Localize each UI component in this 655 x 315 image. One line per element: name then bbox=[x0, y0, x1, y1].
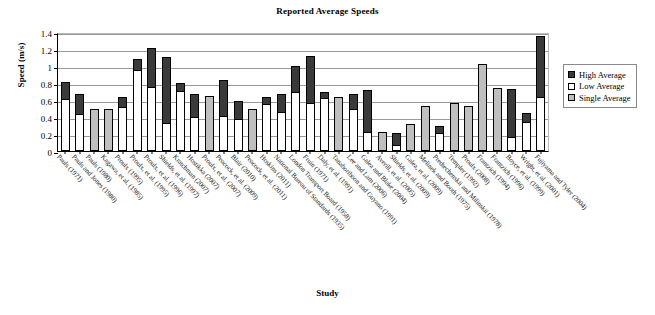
bar-segment-high-average bbox=[133, 59, 142, 70]
bar-segment-low-average bbox=[277, 112, 286, 151]
bar-slot bbox=[447, 34, 461, 151]
bar[interactable] bbox=[464, 106, 473, 151]
y-tick-label: 0.8 bbox=[22, 80, 52, 90]
bar[interactable] bbox=[507, 89, 516, 151]
bar-slot bbox=[375, 34, 389, 151]
bar[interactable] bbox=[219, 80, 228, 151]
bar-segment-high-average bbox=[507, 89, 516, 137]
bar-slot bbox=[116, 34, 130, 151]
bar-segment-single-average bbox=[478, 64, 487, 151]
bar-segment-single-average bbox=[421, 106, 430, 151]
x-axis-tick-labels: Pauls (1971)Pauls and Jones (1980)Pauls … bbox=[57, 153, 549, 285]
bar-segment-low-average bbox=[133, 70, 142, 151]
bar[interactable] bbox=[262, 97, 271, 151]
bar-slot bbox=[332, 34, 346, 151]
bar[interactable] bbox=[435, 126, 444, 151]
legend-item[interactable]: Single Average bbox=[568, 93, 631, 103]
bar-segment-high-average bbox=[118, 97, 127, 106]
bar[interactable] bbox=[291, 66, 300, 151]
bar[interactable] bbox=[248, 109, 257, 151]
bar-segment-low-average bbox=[234, 119, 243, 151]
bar-slot bbox=[346, 34, 360, 151]
bar-segment-low-average bbox=[349, 109, 358, 152]
bar[interactable] bbox=[190, 94, 199, 151]
bar-slot bbox=[202, 34, 216, 151]
bar-slot bbox=[461, 34, 475, 151]
bar[interactable] bbox=[363, 90, 372, 151]
bar-segment-high-average bbox=[75, 94, 84, 114]
bar-slot bbox=[490, 34, 504, 151]
bar[interactable] bbox=[277, 94, 286, 151]
bar-segment-low-average bbox=[536, 97, 545, 151]
bar[interactable] bbox=[234, 101, 243, 151]
bar-slot bbox=[533, 34, 547, 151]
bar[interactable] bbox=[378, 132, 387, 151]
bar-segment-low-average bbox=[306, 103, 315, 151]
bar[interactable] bbox=[536, 36, 545, 151]
y-tick-label: 0.4 bbox=[22, 114, 52, 124]
bar-segment-single-average bbox=[464, 106, 473, 151]
bar[interactable] bbox=[147, 48, 156, 151]
bar[interactable] bbox=[392, 133, 401, 151]
bar-slot bbox=[101, 34, 115, 151]
bar[interactable] bbox=[493, 88, 502, 151]
bar[interactable] bbox=[104, 109, 113, 152]
bar-segment-low-average bbox=[291, 92, 300, 151]
bar-segment-low-average bbox=[118, 107, 127, 151]
bar[interactable] bbox=[349, 94, 358, 151]
x-axis-title: Study bbox=[0, 288, 655, 298]
bar-segment-high-average bbox=[277, 94, 286, 112]
bar-segment-single-average bbox=[378, 132, 387, 151]
bar-slot bbox=[303, 34, 317, 151]
bar-segment-low-average bbox=[75, 114, 84, 151]
bar-segment-low-average bbox=[507, 137, 516, 151]
bar-slot bbox=[389, 34, 403, 151]
bar[interactable] bbox=[118, 97, 127, 151]
bar[interactable] bbox=[162, 57, 171, 151]
bar-slot bbox=[72, 34, 86, 151]
bar-segment-single-average bbox=[493, 88, 502, 151]
bar[interactable] bbox=[306, 56, 315, 151]
bar-segment-high-average bbox=[306, 56, 315, 103]
bar-slot bbox=[361, 34, 375, 151]
bar-slot bbox=[505, 34, 519, 151]
y-tick-label: 1.2 bbox=[22, 46, 52, 56]
y-tick-label: 1 bbox=[22, 63, 52, 73]
bar-segment-high-average bbox=[291, 66, 300, 92]
legend-label: Low Average bbox=[579, 81, 624, 91]
bar-slot bbox=[245, 34, 259, 151]
bar[interactable] bbox=[478, 64, 487, 151]
bar[interactable] bbox=[75, 94, 84, 151]
bar[interactable] bbox=[90, 109, 99, 152]
bar[interactable] bbox=[133, 59, 142, 151]
chart-title: Reported Average Speeds bbox=[0, 6, 655, 16]
bar-slot bbox=[231, 34, 245, 151]
bar-segment-high-average bbox=[522, 113, 531, 122]
bar-segment-low-average bbox=[262, 104, 271, 151]
y-tick-label: 1.4 bbox=[22, 29, 52, 39]
bar-segment-low-average bbox=[176, 91, 185, 151]
bar-slot bbox=[87, 34, 101, 151]
bar-segment-low-average bbox=[522, 122, 531, 151]
bar-segment-high-average bbox=[162, 57, 171, 123]
bar[interactable] bbox=[61, 82, 70, 151]
bar[interactable] bbox=[334, 97, 343, 151]
legend-label: High Average bbox=[579, 70, 626, 80]
bar-slot bbox=[289, 34, 303, 151]
bar[interactable] bbox=[406, 124, 415, 151]
bar-segment-single-average bbox=[334, 97, 343, 151]
bar-slot bbox=[173, 34, 187, 151]
bar-segment-high-average bbox=[219, 80, 228, 117]
bar[interactable] bbox=[205, 96, 214, 151]
bar[interactable] bbox=[450, 103, 459, 151]
bar[interactable] bbox=[176, 83, 185, 151]
legend-item[interactable]: High Average bbox=[568, 70, 631, 80]
bar-slot bbox=[433, 34, 447, 151]
legend-swatch-icon bbox=[568, 94, 575, 101]
bar[interactable] bbox=[320, 92, 329, 151]
bar-slot bbox=[404, 34, 418, 151]
legend-item[interactable]: Low Average bbox=[568, 81, 631, 91]
bar[interactable] bbox=[522, 113, 531, 151]
bar-segment-low-average bbox=[162, 123, 171, 151]
bar[interactable] bbox=[421, 106, 430, 151]
